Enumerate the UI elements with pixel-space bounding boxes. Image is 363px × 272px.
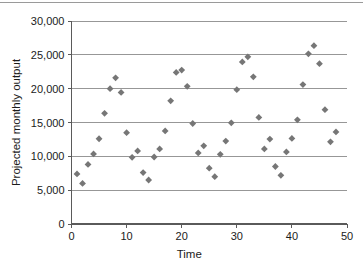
data-point [233,86,240,93]
data-point [134,148,141,155]
data-point [189,120,196,127]
data-point [145,177,152,184]
data-point [101,110,108,117]
x-tick-label-0: 0 [68,230,74,242]
y-tick-label-0: 0 [58,218,64,230]
data-point [74,171,81,178]
data-point [85,161,92,168]
data-point [333,129,340,136]
y-tick-label-25000: 25,000 [31,49,65,61]
x-tick-label-30: 30 [231,230,243,242]
x-tick-label-50: 50 [341,230,353,242]
x-tick-label-10: 10 [120,230,132,242]
data-point [162,128,169,135]
data-point [272,163,279,170]
x-tick-label-group: 01020304050 [68,230,353,242]
data-point [305,50,312,57]
data-point [79,180,86,187]
y-tick-label-group: 05,00010,00015,00020,00025,00030,000 [31,15,65,230]
chart-figure: 05,00010,00015,00020,00025,00030,000 010… [0,0,363,272]
x-axis-title: Time [177,248,202,260]
data-point [255,114,262,121]
data-point [156,145,163,152]
data-point [283,149,290,156]
data-point [277,172,284,179]
data-point [167,97,174,104]
data-point-group [74,42,340,187]
data-point [327,138,334,145]
data-point [118,89,125,96]
y-tick-label-5000: 5,000 [37,184,65,196]
y-tick-label-30000: 30,000 [31,15,65,27]
x-tick-label-20: 20 [176,230,188,242]
data-point [250,73,257,80]
data-point [316,60,323,67]
x-tick-label-40: 40 [286,230,298,242]
data-point [211,173,218,180]
data-point [222,138,229,145]
data-point [107,85,114,92]
data-point [151,154,158,161]
data-point [123,129,130,136]
data-point [195,150,202,157]
y-tick-label-10000: 10,000 [31,150,65,162]
y-tick-label-20000: 20,000 [31,83,65,95]
tickmark-group [68,21,348,228]
scatter-plot: 05,00010,00015,00020,00025,00030,000 010… [0,0,363,272]
data-point [289,135,296,142]
data-point [228,119,235,126]
data-point [239,59,246,66]
y-tick-label-15000: 15,000 [31,117,65,129]
data-point [112,74,119,81]
y-axis-title: Projected monthly output [10,58,22,186]
data-point [322,106,329,113]
data-point [140,169,147,176]
data-point [200,142,207,149]
data-point [129,154,136,161]
data-point [266,136,273,143]
data-point [206,165,213,172]
data-point [96,135,103,142]
data-point [261,145,268,152]
data-point [311,42,318,49]
data-point [300,81,307,88]
